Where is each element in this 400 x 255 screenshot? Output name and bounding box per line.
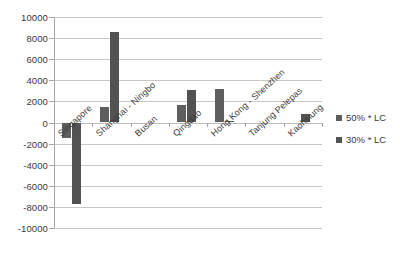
x-axis-tickmark	[245, 123, 246, 127]
y-axis-tick-label: 0	[0, 117, 48, 128]
legend-swatch-icon	[336, 137, 342, 143]
x-axis-tickmark	[92, 123, 93, 127]
gridline	[54, 165, 322, 166]
y-axis-tick-label: -10000	[0, 223, 48, 234]
y-axis-tickmark	[49, 101, 54, 102]
gridline	[54, 228, 322, 229]
y-axis-tick-label: -8000	[0, 201, 48, 212]
y-axis-tickmark	[49, 17, 54, 18]
chart-container: 1000080006000400020000-2000-4000-6000-80…	[0, 0, 400, 255]
y-axis-tick-label: 10000	[0, 12, 48, 23]
y-axis-tick-label: 2000	[0, 96, 48, 107]
x-axis-tickmark	[169, 123, 170, 127]
gridline	[54, 17, 322, 18]
y-axis-tick-label: 4000	[0, 75, 48, 86]
y-axis-tick-label: -2000	[0, 138, 48, 149]
y-axis-tick-label: -6000	[0, 180, 48, 191]
y-axis-tickmark	[49, 123, 54, 124]
x-axis-tickmark	[284, 123, 285, 127]
y-axis-line	[54, 17, 55, 228]
chart-legend: 50% * LC 30% * LC	[336, 112, 386, 156]
gridline	[54, 144, 322, 145]
legend-label: 50% * LC	[346, 112, 386, 123]
y-axis-tickmark	[49, 207, 54, 208]
gridline	[54, 59, 322, 60]
y-axis-tickmark	[49, 59, 54, 60]
gridline	[54, 186, 322, 187]
y-axis-tickmark	[49, 186, 54, 187]
bar[interactable]	[72, 123, 81, 204]
legend-item[interactable]: 50% * LC	[336, 112, 386, 123]
gridline	[54, 38, 322, 39]
y-axis-tickmark	[49, 165, 54, 166]
y-axis-tickmark	[49, 228, 54, 229]
x-axis-tickmark	[207, 123, 208, 127]
y-axis-tickmark	[49, 38, 54, 39]
y-axis-tick-label: 8000	[0, 33, 48, 44]
x-axis-tickmark	[322, 123, 323, 127]
gridline	[54, 207, 322, 208]
y-axis-tick-label: 6000	[0, 54, 48, 65]
legend-item[interactable]: 30% * LC	[336, 134, 386, 145]
y-axis-tickmark	[49, 144, 54, 145]
y-axis-tickmark	[49, 80, 54, 81]
gridline	[54, 80, 322, 81]
y-axis-tick-label: -4000	[0, 159, 48, 170]
legend-label: 30% * LC	[346, 134, 386, 145]
legend-swatch-icon	[336, 115, 342, 121]
x-axis-tickmark	[131, 123, 132, 127]
